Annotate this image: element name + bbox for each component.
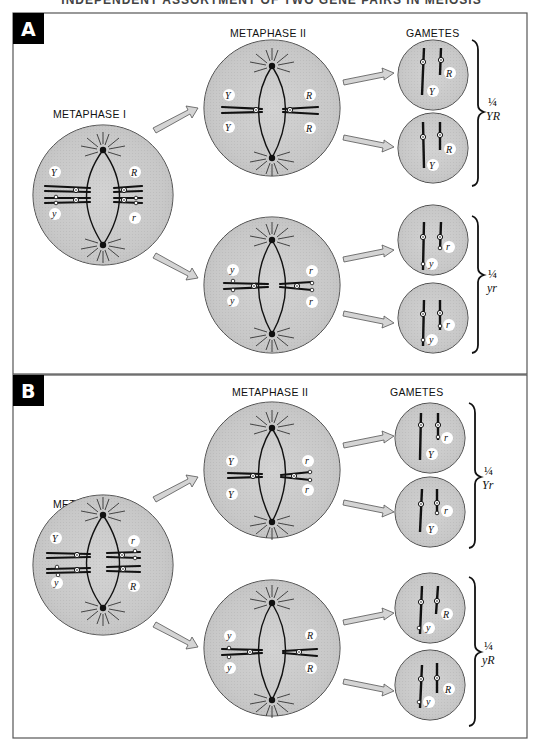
allele-label: R (305, 90, 312, 101)
allele-label: R (306, 663, 313, 674)
meiosis-diagram: A METAPHASE II GAMETES METAPHASE I (0, 0, 543, 751)
arrow-icon (343, 500, 394, 517)
gametes-label: GAMETES (406, 27, 459, 39)
arrow-icon (153, 475, 198, 502)
arrow-icon (343, 68, 394, 85)
brace-icon (472, 40, 484, 186)
allele-label: r (132, 212, 136, 223)
allele-label: y (51, 208, 57, 219)
allele-label: r (446, 319, 450, 330)
arrow-icon (343, 679, 394, 696)
gamete-cell: R Y (398, 113, 468, 183)
allele-label: r (444, 432, 448, 443)
gametes-label: GAMETES (390, 386, 443, 398)
allele-label: r (131, 535, 135, 546)
panel-a-letter: A (21, 18, 36, 40)
genotype-label: yr (486, 281, 497, 295)
gamete-cell: R Y (398, 40, 468, 110)
allele-label: R (306, 630, 313, 641)
allele-label: R (444, 684, 451, 695)
metaphase-i-label: METAPHASE I (53, 108, 126, 120)
fraction-label: ¼ (484, 464, 493, 478)
brace-icon (469, 403, 481, 548)
arrow-icon (343, 311, 394, 328)
metaphase-ii-cell-top: Y Y R R (204, 40, 340, 176)
fraction-label: ¼ (488, 95, 497, 109)
allele-label: y (428, 334, 434, 345)
allele-label: y (226, 662, 232, 673)
gamete-cell: r Y (395, 403, 465, 473)
allele-label: R (442, 609, 449, 620)
metaphase-ii-cell-bottom: y y R R (204, 580, 340, 718)
allele-label: y (428, 258, 434, 269)
metaphase-ii-cell-bottom: y y r r (204, 217, 340, 353)
arrow-icon (153, 622, 198, 649)
allele-label: r (305, 484, 309, 495)
allele-label: R (445, 68, 452, 79)
allele-label: r (305, 455, 309, 466)
gamete-cell: r y (398, 283, 468, 353)
arrow-icon (343, 245, 394, 262)
panel-b: B METAPHASE II GAMETES METAPHASE I (13, 375, 527, 738)
metaphase-ii-cell-top: Y Y r r (204, 402, 340, 540)
gamete-cell: r Y (395, 477, 465, 547)
allele-label: r (444, 505, 448, 516)
allele-label: R (130, 167, 137, 178)
brace-icon (472, 216, 484, 353)
panel-b-letter: B (21, 380, 35, 402)
allele-label: y (425, 622, 431, 633)
allele-label: y (229, 264, 235, 275)
allele-label: R (305, 123, 312, 134)
arrows-met-ii-to-gametes (343, 68, 394, 328)
metaphase-i-cell: Y y r R (33, 495, 173, 635)
allele-label: r (446, 241, 450, 252)
allele-label: R (445, 144, 452, 155)
gamete-cell: R y (395, 650, 465, 720)
metaphase-ii-label: METAPHASE II (230, 27, 306, 39)
metaphase-i-cell: Y y R r (33, 125, 173, 265)
gamete-cell: R y (395, 573, 465, 643)
genotype-label: yR (481, 653, 495, 667)
metaphase-ii-label: METAPHASE II (232, 386, 308, 398)
allele-label: y (425, 696, 431, 707)
genotype-label: YR (486, 109, 501, 123)
fraction-label: ¼ (488, 267, 497, 281)
allele-label: y (53, 577, 59, 588)
arrow-icon (153, 106, 198, 133)
gamete-cell: r y (398, 205, 468, 275)
arrow-icon (343, 135, 394, 152)
allele-label: y (229, 295, 235, 306)
panel-a: A METAPHASE II GAMETES METAPHASE I (13, 13, 527, 374)
allele-label: y (226, 630, 232, 641)
arrow-icon (153, 253, 198, 280)
brace-icon (469, 577, 481, 726)
arrow-icon (343, 608, 394, 625)
genotype-label: Yr (482, 478, 494, 492)
fraction-label: ¼ (484, 639, 493, 653)
arrows-met-ii-to-gametes (343, 431, 394, 696)
allele-label: r (309, 296, 313, 307)
allele-label: r (309, 265, 313, 276)
allele-label: R (129, 581, 136, 592)
arrow-icon (343, 431, 394, 448)
